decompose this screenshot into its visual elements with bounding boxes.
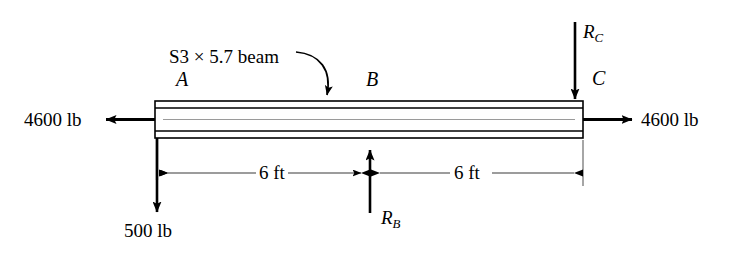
reaction-rc-subscript: C: [595, 30, 604, 45]
beam-callout-leader: [296, 52, 328, 95]
node-label-a: A: [176, 69, 188, 89]
reaction-rb-subscript: B: [393, 216, 401, 231]
reaction-rc-label: RC: [583, 22, 603, 45]
dimension-label-left: 6 ft: [259, 163, 285, 182]
axial-force-right-label: 4600 lb: [641, 110, 699, 129]
node-label-b: B: [366, 69, 378, 89]
beam-body: [155, 101, 583, 138]
beam-free-body-diagram: 4600 lb 4600 lb 500 lb S3 × 5.7 beam A B…: [0, 0, 738, 264]
reaction-rb-label: RB: [381, 208, 401, 231]
beam-section-label: S3 × 5.7 beam: [169, 47, 279, 66]
reaction-rb-symbol: R: [381, 207, 393, 228]
dimension-label-right: 6 ft: [454, 163, 480, 182]
axial-force-left-label: 4600 lb: [24, 110, 82, 129]
node-label-c: C: [592, 68, 605, 88]
load-500lb-label: 500 lb: [124, 221, 172, 240]
reaction-rc-symbol: R: [583, 21, 595, 42]
diagram-canvas: [0, 0, 738, 264]
